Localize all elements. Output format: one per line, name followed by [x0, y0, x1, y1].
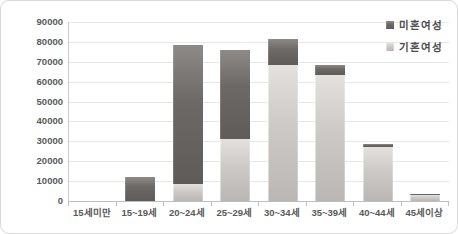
x-axis-category-label: 25~29세	[211, 205, 259, 219]
x-axis-category-label: 35~39세	[306, 205, 354, 219]
chart-frame: 9000080000700006000050000400003000020000…	[0, 0, 458, 234]
y-axis-tick-label: 0	[5, 196, 63, 206]
gridline	[69, 121, 449, 122]
legend-label-unmarried: 미혼여성	[399, 17, 443, 32]
x-axis-tick	[306, 202, 307, 206]
x-axis-tick	[68, 202, 69, 206]
x-axis-tick	[258, 202, 259, 206]
x-axis-category-label: 15~19세	[116, 205, 164, 219]
bar-segment-미혼여성	[220, 50, 250, 140]
unmarried-series-swatch-icon	[386, 21, 394, 29]
gridline	[69, 62, 449, 63]
x-axis-tick	[448, 202, 449, 206]
y-axis-tick-label: 60000	[5, 77, 63, 87]
bar-segment-미혼여성	[363, 144, 393, 147]
gridline	[69, 82, 449, 83]
y-axis-tick-label: 40000	[5, 116, 63, 126]
y-axis-tick-label: 10000	[5, 176, 63, 186]
bar-segment-미혼여성	[315, 65, 345, 75]
legend: 미혼여성 기혼여성	[386, 17, 443, 54]
x-axis-tick	[163, 202, 164, 206]
bar-segment-미혼여성	[173, 45, 203, 184]
x-axis-category-label: 45세이상	[401, 205, 449, 219]
bar-segment-기혼여성	[173, 184, 203, 201]
bar-segment-기혼여성	[363, 147, 393, 201]
bar-segment-기혼여성	[410, 195, 440, 201]
gridline	[69, 102, 449, 103]
y-axis-tick-label: 90000	[5, 17, 63, 27]
bar-segment-미혼여성	[125, 177, 155, 201]
x-axis-tick	[353, 202, 354, 206]
x-axis-tick	[116, 202, 117, 206]
y-axis-tick-label: 70000	[5, 57, 63, 67]
y-axis-tick-label: 30000	[5, 136, 63, 146]
x-axis-tick	[401, 202, 402, 206]
x-axis-category-label: 15세미만	[68, 205, 116, 219]
legend-item-married: 기혼여성	[386, 39, 443, 54]
x-axis-tick	[211, 202, 212, 206]
x-axis-category-label: 30~34세	[258, 205, 306, 219]
bar-segment-기혼여성	[315, 75, 345, 201]
married-series-swatch-icon	[386, 43, 394, 51]
bar-segment-기혼여성	[268, 65, 298, 201]
y-axis-tick-label: 20000	[5, 156, 63, 166]
bar-segment-미혼여성	[410, 194, 440, 195]
x-axis-category-label: 20~24세	[163, 205, 211, 219]
gridline	[69, 141, 449, 142]
y-axis-tick-label: 50000	[5, 97, 63, 107]
y-axis-tick-label: 80000	[5, 37, 63, 47]
x-axis-category-label: 40~44세	[353, 205, 401, 219]
bar-segment-미혼여성	[268, 39, 298, 65]
bar-segment-기혼여성	[220, 139, 250, 201]
legend-item-unmarried: 미혼여성	[386, 17, 443, 32]
legend-label-married: 기혼여성	[399, 39, 443, 54]
